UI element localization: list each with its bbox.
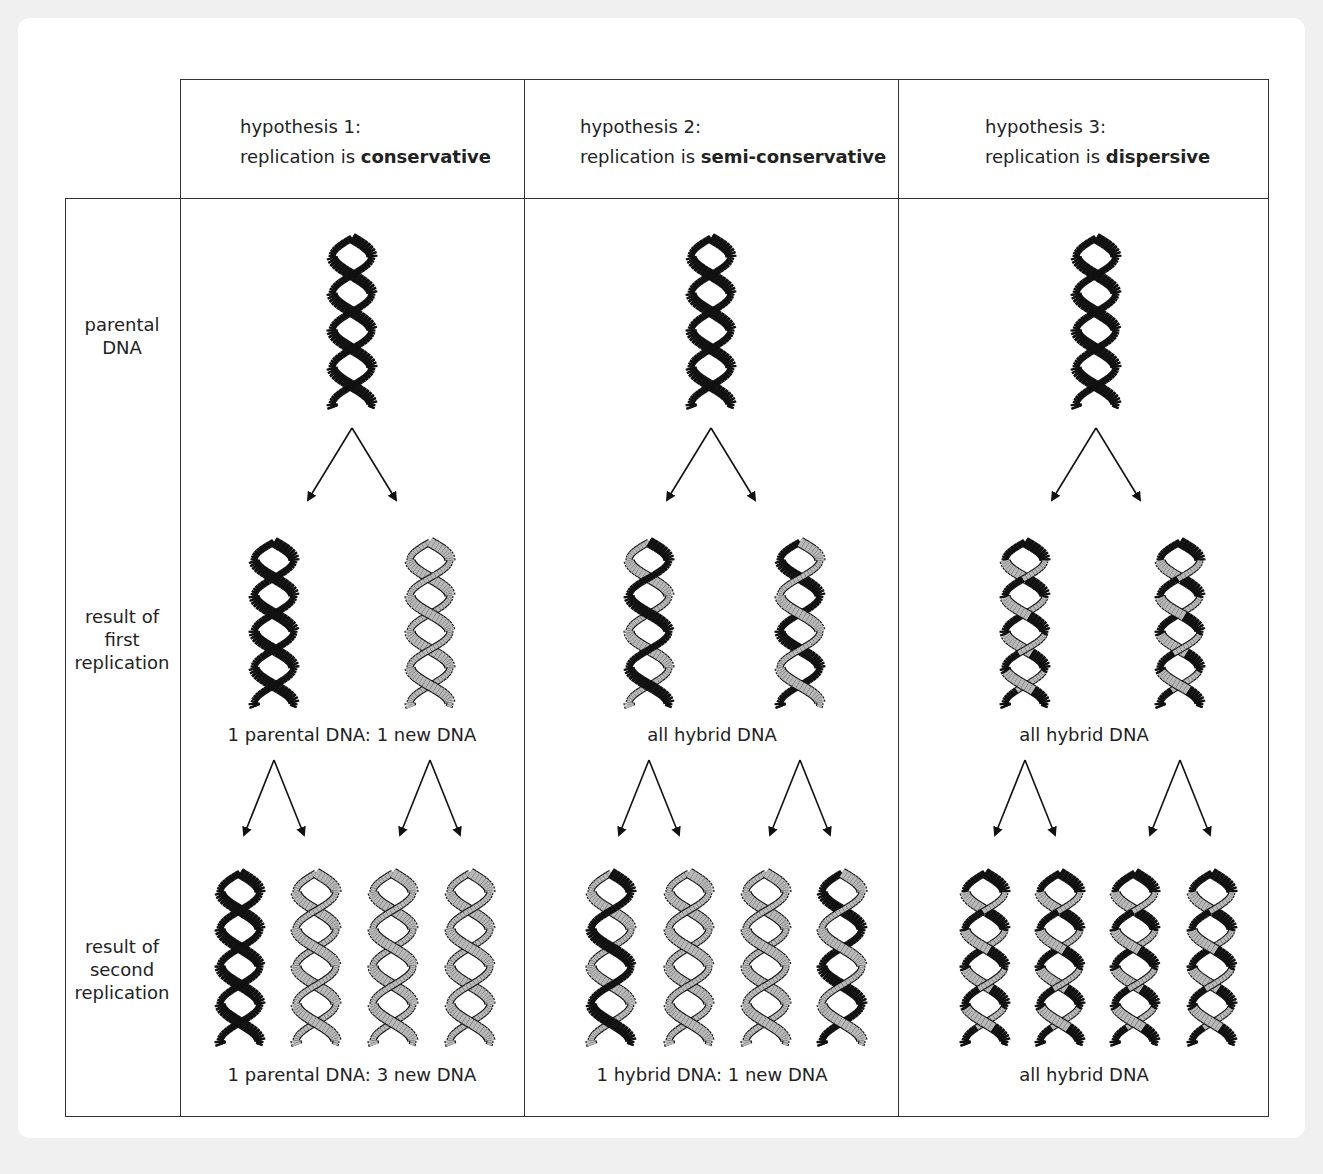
first-replication-helix — [254, 542, 294, 707]
second-replication-helix — [373, 873, 413, 1045]
split-arrows — [1150, 760, 1210, 835]
second-replication-helix — [822, 873, 862, 1045]
parental-helix — [1076, 238, 1116, 408]
second-replication-helix — [1115, 873, 1155, 1045]
split-arrows — [400, 760, 460, 835]
first-replication-helix — [1005, 542, 1045, 707]
second-replication-helix — [591, 873, 631, 1045]
second-replication-helix — [669, 873, 709, 1045]
split-arrows — [244, 760, 304, 835]
second-replication-helix — [746, 873, 786, 1045]
split-arrows — [770, 760, 830, 835]
first-replication-helix — [1160, 542, 1200, 707]
second-replication-helix — [1040, 873, 1080, 1045]
second-replication-helix — [296, 873, 336, 1045]
helix-and-arrow-layer — [0, 0, 1323, 1174]
first-replication-helix — [780, 542, 820, 707]
split-arrows — [619, 760, 679, 835]
second-replication-helix — [220, 873, 260, 1045]
split-arrows — [308, 428, 396, 500]
second-replication-helix — [1192, 873, 1232, 1045]
split-arrows — [667, 428, 755, 500]
split-arrows — [1052, 428, 1140, 500]
parental-helix — [691, 238, 731, 408]
second-replication-helix — [965, 873, 1005, 1045]
dna-replication-hypotheses-table: hypothesis 1: replication is conservativ… — [0, 0, 1323, 1174]
first-replication-helix — [629, 542, 669, 707]
parental-helix — [332, 238, 372, 408]
split-arrows — [995, 760, 1055, 835]
second-replication-helix — [450, 873, 490, 1045]
first-replication-helix — [410, 542, 450, 707]
